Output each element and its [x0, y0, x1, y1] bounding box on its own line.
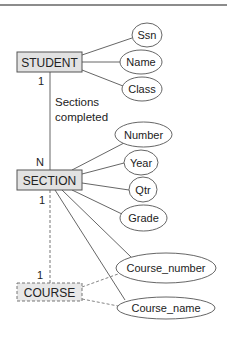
entity-section-label: SECTION: [23, 174, 76, 188]
attribute-class[interactable]: Class: [122, 77, 162, 101]
attribute-course-name[interactable]: Course_name: [117, 297, 215, 319]
attribute-year-label: Year: [130, 157, 153, 169]
attribute-grade-label: Grade: [128, 212, 159, 224]
attribute-qtr[interactable]: Qtr: [129, 177, 157, 202]
attribute-qtr-label: Qtr: [135, 184, 151, 196]
course-attribute-dashed-lines: [82, 274, 118, 306]
entity-section[interactable]: SECTION: [17, 170, 82, 190]
cardinality-student: 1: [38, 75, 44, 87]
attribute-name[interactable]: Name: [120, 50, 162, 74]
entity-student[interactable]: STUDENT: [17, 52, 82, 72]
entity-course-label: COURSE: [24, 286, 75, 300]
attribute-ssn-label: Ssn: [138, 29, 157, 41]
entity-course[interactable]: COURSE: [17, 283, 82, 301]
relationship-label-line1: Sections: [55, 96, 99, 108]
attribute-ssn[interactable]: Ssn: [132, 23, 162, 47]
section-attribute-lines: [55, 143, 131, 300]
relationship-label-line2: completed: [55, 111, 108, 123]
attribute-course-number[interactable]: Course_number: [116, 253, 216, 283]
attribute-year[interactable]: Year: [124, 150, 158, 175]
attribute-grade[interactable]: Grade: [120, 205, 167, 231]
attribute-number[interactable]: Number: [115, 122, 172, 147]
attribute-course-name-label: Course_name: [131, 302, 200, 314]
er-diagram-canvas: STUDENT SECTION COURSE Ssn Name Class Nu…: [0, 0, 227, 337]
cardinality-section-n: N: [36, 156, 44, 168]
attribute-number-label: Number: [124, 129, 163, 141]
cardinality-course: 1: [37, 269, 43, 281]
entity-student-label: STUDENT: [21, 56, 78, 70]
cardinality-section-course: 1: [39, 194, 45, 206]
attribute-class-label: Class: [128, 83, 156, 95]
attribute-course-number-label: Course_number: [127, 262, 206, 274]
attribute-name-label: Name: [126, 56, 155, 68]
